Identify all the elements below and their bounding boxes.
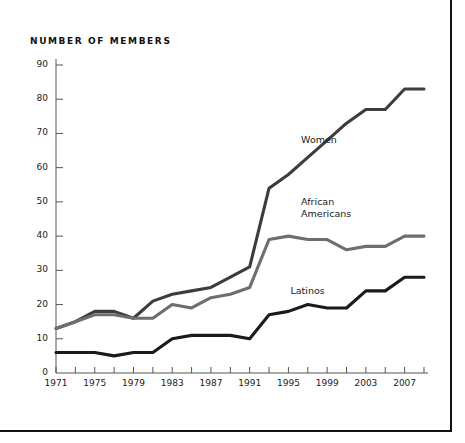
- y-axis-tick-label: 50: [26, 196, 48, 206]
- y-axis-tick-label: 70: [26, 127, 48, 137]
- series-line-women: [56, 89, 424, 329]
- x-axis-tick-label: 2003: [346, 378, 386, 388]
- series-line-african-americans: [56, 236, 424, 328]
- x-axis-tick-label: 1991: [230, 378, 270, 388]
- series-line-latinos: [56, 277, 424, 356]
- x-axis-tick-label: 1995: [268, 378, 308, 388]
- y-axis-tick-label: 60: [26, 162, 48, 172]
- series-label-african-americans-line2: Americans: [301, 208, 351, 219]
- x-axis-tick-label: 1975: [75, 378, 115, 388]
- page-frame-right-rule: [450, 0, 452, 432]
- y-axis-tick-label: 90: [26, 59, 48, 69]
- y-axis-tick-label: 80: [26, 93, 48, 103]
- y-axis-tick-label: 30: [26, 264, 48, 274]
- chart-series: [56, 89, 424, 356]
- x-axis-tick-label: 1971: [36, 378, 76, 388]
- line-chart: [0, 0, 465, 443]
- series-label-women: Women: [301, 134, 337, 146]
- series-label-latinos: Latinos: [290, 285, 324, 297]
- x-axis-tick-label: 1983: [152, 378, 192, 388]
- chart-axes: [56, 59, 428, 373]
- y-axis-tick-label: 20: [26, 299, 48, 309]
- x-axis-tick-label: 1979: [113, 378, 153, 388]
- x-axis-tick-label: 2007: [385, 378, 425, 388]
- x-axis-tick-label: 1999: [307, 378, 347, 388]
- series-label-african-americans-line1: African: [301, 196, 334, 207]
- y-axis-tick-label: 10: [26, 333, 48, 343]
- x-axis-tick-label: 1987: [191, 378, 231, 388]
- page-frame-bottom-rule: [0, 430, 452, 432]
- y-axis-tick-label: 40: [26, 230, 48, 240]
- series-label-african-americans: African Americans: [301, 196, 351, 220]
- y-axis-tick-label: 0: [26, 367, 48, 377]
- chart-page: NUMBER OF MEMBERS Women African American…: [0, 0, 465, 443]
